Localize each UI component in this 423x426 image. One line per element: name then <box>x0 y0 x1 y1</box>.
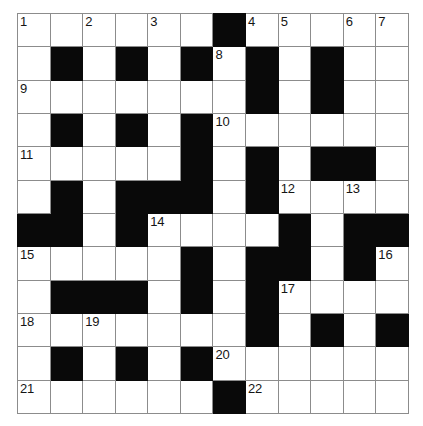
letter-cell[interactable] <box>180 80 213 113</box>
letter-cell[interactable]: 15 <box>18 247 51 280</box>
letter-cell[interactable] <box>376 380 409 413</box>
letter-cell[interactable] <box>343 347 376 380</box>
letter-cell[interactable] <box>148 347 181 380</box>
letter-cell[interactable] <box>213 280 246 313</box>
letter-cell[interactable] <box>83 113 116 146</box>
letter-cell[interactable] <box>311 347 344 380</box>
letter-cell[interactable]: 19 <box>83 313 116 346</box>
letter-cell[interactable] <box>148 113 181 146</box>
letter-cell[interactable] <box>115 14 148 47</box>
letter-cell[interactable]: 4 <box>246 14 279 47</box>
letter-cell[interactable] <box>115 80 148 113</box>
letter-cell[interactable] <box>83 380 116 413</box>
letter-cell[interactable]: 14 <box>148 213 181 246</box>
letter-cell[interactable]: 5 <box>278 14 311 47</box>
letter-cell[interactable] <box>180 14 213 47</box>
letter-cell[interactable] <box>115 247 148 280</box>
letter-cell[interactable] <box>148 147 181 180</box>
letter-cell[interactable] <box>376 47 409 80</box>
letter-cell[interactable]: 9 <box>18 80 51 113</box>
letter-cell[interactable] <box>18 347 51 380</box>
letter-cell[interactable] <box>246 347 279 380</box>
letter-cell[interactable]: 22 <box>246 380 279 413</box>
letter-cell[interactable] <box>278 47 311 80</box>
letter-cell[interactable] <box>18 113 51 146</box>
letter-cell[interactable] <box>278 313 311 346</box>
letter-cell[interactable]: 3 <box>148 14 181 47</box>
letter-cell[interactable] <box>278 147 311 180</box>
letter-cell[interactable] <box>213 80 246 113</box>
letter-cell[interactable]: 12 <box>278 180 311 213</box>
letter-cell[interactable] <box>180 313 213 346</box>
letter-cell[interactable] <box>343 47 376 80</box>
letter-cell[interactable] <box>343 80 376 113</box>
letter-cell[interactable] <box>115 147 148 180</box>
letter-cell[interactable] <box>343 280 376 313</box>
letter-cell[interactable] <box>83 47 116 80</box>
letter-cell[interactable]: 7 <box>376 14 409 47</box>
letter-cell[interactable] <box>148 80 181 113</box>
letter-cell[interactable] <box>18 47 51 80</box>
letter-cell[interactable]: 21 <box>18 380 51 413</box>
letter-cell[interactable] <box>278 113 311 146</box>
letter-cell[interactable] <box>148 380 181 413</box>
letter-cell[interactable] <box>213 147 246 180</box>
letter-cell[interactable] <box>50 147 83 180</box>
letter-cell[interactable] <box>18 280 51 313</box>
letter-cell[interactable] <box>83 247 116 280</box>
letter-cell[interactable] <box>148 247 181 280</box>
letter-cell[interactable] <box>376 280 409 313</box>
letter-cell[interactable]: 16 <box>376 247 409 280</box>
letter-cell[interactable] <box>50 14 83 47</box>
letter-cell[interactable] <box>343 380 376 413</box>
letter-cell[interactable]: 8 <box>213 47 246 80</box>
letter-cell[interactable] <box>148 47 181 80</box>
letter-cell[interactable] <box>311 247 344 280</box>
letter-cell[interactable] <box>311 180 344 213</box>
letter-cell[interactable]: 18 <box>18 313 51 346</box>
letter-cell[interactable] <box>148 280 181 313</box>
letter-cell[interactable] <box>213 213 246 246</box>
letter-cell[interactable] <box>148 313 181 346</box>
letter-cell[interactable] <box>311 280 344 313</box>
letter-cell[interactable] <box>83 147 116 180</box>
letter-cell[interactable] <box>376 180 409 213</box>
letter-cell[interactable] <box>343 313 376 346</box>
letter-cell[interactable] <box>278 347 311 380</box>
letter-cell[interactable]: 2 <box>83 14 116 47</box>
letter-cell[interactable]: 6 <box>343 14 376 47</box>
letter-cell[interactable] <box>213 180 246 213</box>
letter-cell[interactable] <box>311 113 344 146</box>
letter-cell[interactable] <box>50 313 83 346</box>
letter-cell[interactable] <box>311 14 344 47</box>
letter-cell[interactable] <box>246 113 279 146</box>
letter-cell[interactable] <box>376 80 409 113</box>
letter-cell[interactable] <box>50 380 83 413</box>
letter-cell[interactable]: 13 <box>343 180 376 213</box>
letter-cell[interactable] <box>213 247 246 280</box>
letter-cell[interactable] <box>278 380 311 413</box>
letter-cell[interactable] <box>376 347 409 380</box>
letter-cell[interactable] <box>50 80 83 113</box>
letter-cell[interactable] <box>376 147 409 180</box>
crossword-grid[interactable]: 12345678910111213141516171819202122 <box>17 13 409 414</box>
letter-cell[interactable] <box>115 313 148 346</box>
letter-cell[interactable] <box>83 347 116 380</box>
letter-cell[interactable]: 11 <box>18 147 51 180</box>
letter-cell[interactable]: 17 <box>278 280 311 313</box>
letter-cell[interactable] <box>343 113 376 146</box>
letter-cell[interactable]: 20 <box>213 347 246 380</box>
letter-cell[interactable] <box>311 213 344 246</box>
letter-cell[interactable] <box>180 380 213 413</box>
letter-cell[interactable] <box>311 380 344 413</box>
letter-cell[interactable] <box>213 313 246 346</box>
letter-cell[interactable]: 10 <box>213 113 246 146</box>
letter-cell[interactable] <box>180 213 213 246</box>
letter-cell[interactable] <box>83 180 116 213</box>
letter-cell[interactable] <box>83 213 116 246</box>
letter-cell[interactable] <box>115 380 148 413</box>
letter-cell[interactable] <box>278 80 311 113</box>
letter-cell[interactable] <box>376 113 409 146</box>
letter-cell[interactable] <box>83 80 116 113</box>
letter-cell[interactable] <box>246 213 279 246</box>
